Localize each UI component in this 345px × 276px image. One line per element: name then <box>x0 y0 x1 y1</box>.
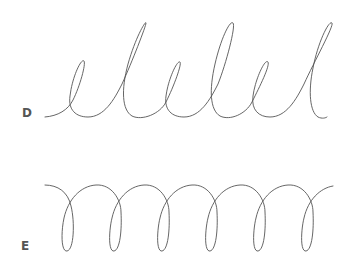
curve-d <box>45 23 332 119</box>
curve-e <box>45 185 333 251</box>
figures-canvas <box>0 0 345 276</box>
